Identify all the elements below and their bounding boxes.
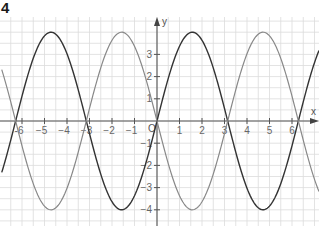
sine-chart: xyO-6−5−4−3−2−1123456−4−3−2−1123 (0, 0, 319, 226)
y-tick-label: 3 (146, 49, 152, 60)
y-axis-label: y (162, 16, 167, 27)
x-tick-label: −1 (126, 125, 138, 136)
x-tick-label: 1 (177, 125, 183, 136)
x-tick-label: −4 (58, 125, 70, 136)
x-tick-label: 5 (267, 125, 273, 136)
y-tick-label: 2 (146, 71, 152, 82)
x-axis-label: x (311, 106, 316, 117)
axes (0, 17, 319, 226)
x-tick-label: −2 (103, 125, 115, 136)
x-tick-label: −5 (36, 125, 48, 136)
x-tick-label: 4 (244, 125, 250, 136)
tick-labels: xyO-6−5−4−3−2−1123456−4−3−2−1123 (15, 16, 316, 215)
y-tick-label: −4 (141, 204, 153, 215)
x-tick-label: 2 (199, 125, 205, 136)
y-tick-label: −3 (141, 182, 153, 193)
